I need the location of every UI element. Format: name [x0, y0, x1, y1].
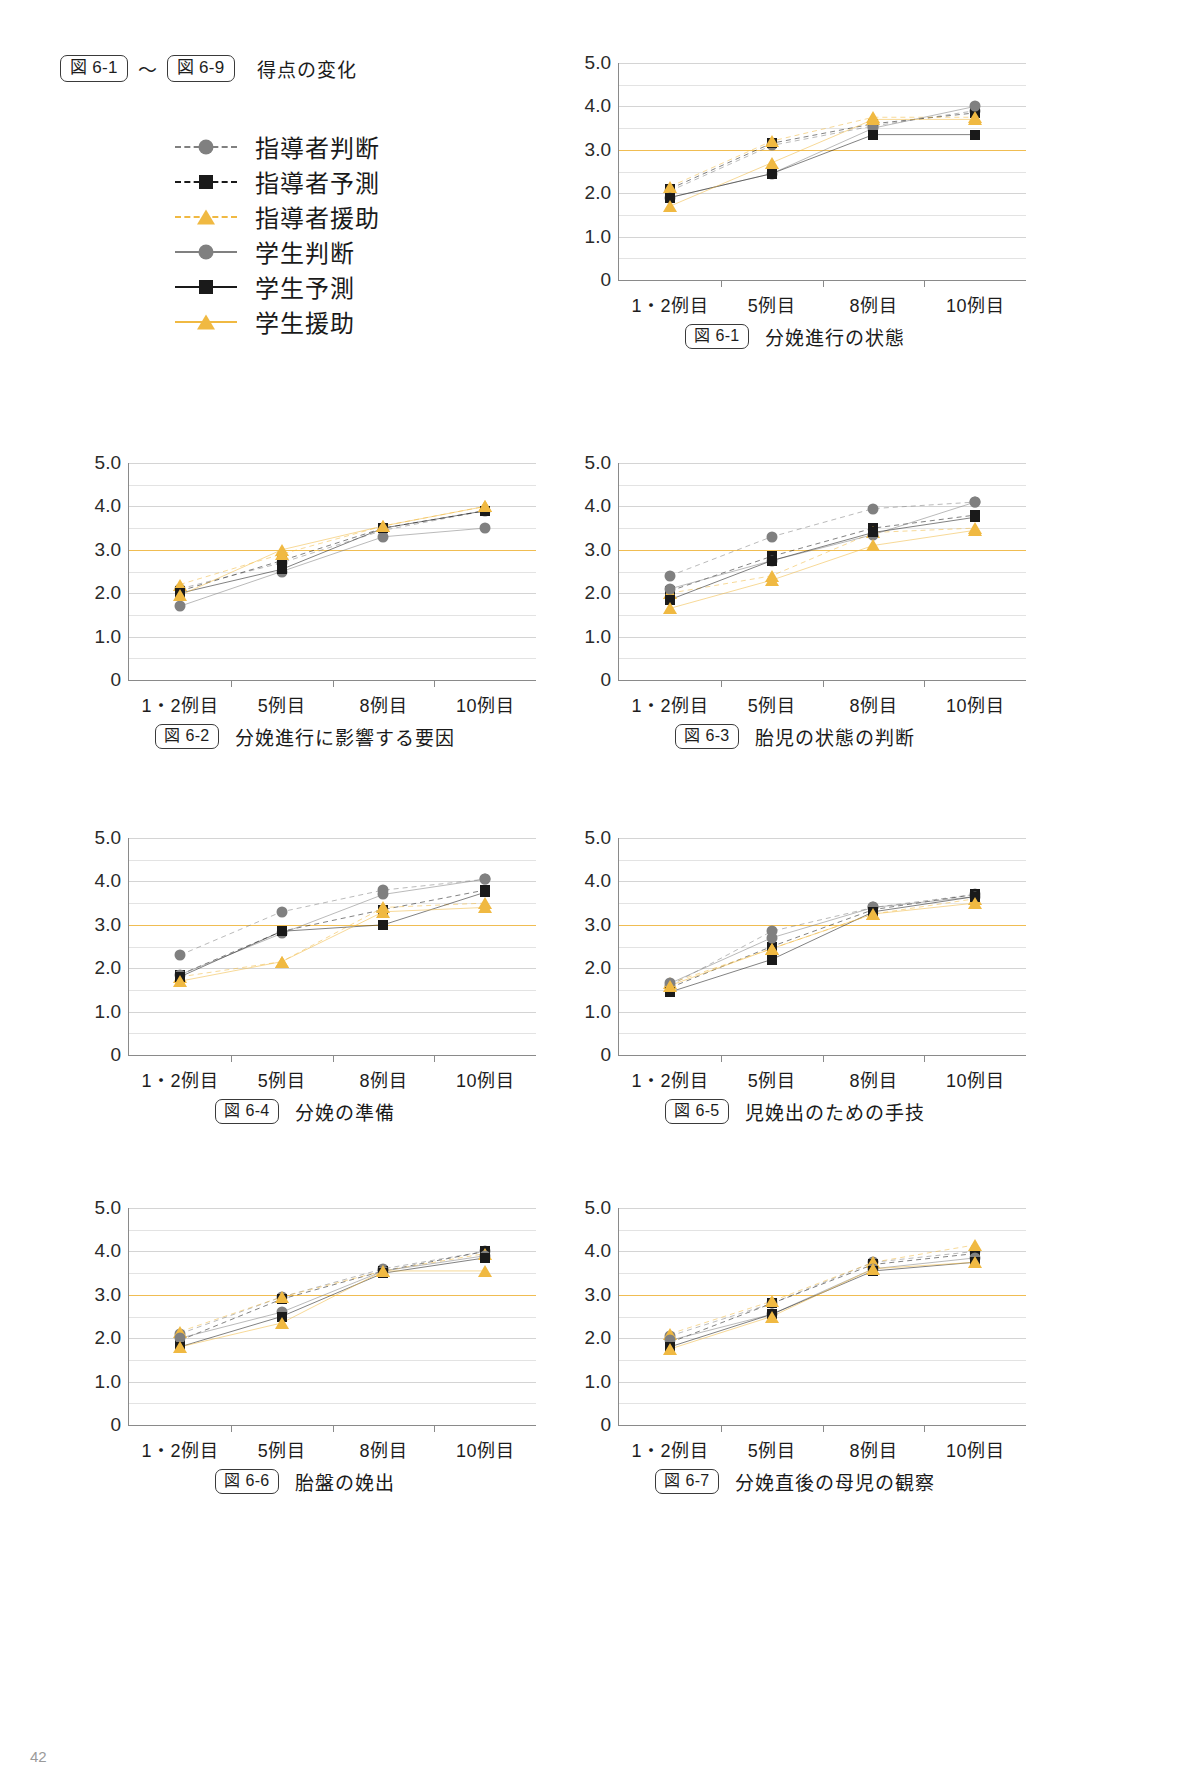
data-point-triangle [968, 897, 982, 909]
x-axis-tick-label: 10例目 [456, 1436, 514, 1462]
plot-canvas: 01.02.03.04.05.01・2例目5例目8例目10例目 [618, 1208, 1026, 1426]
x-axis-tick-label: 5例目 [258, 691, 306, 717]
chart-figure-tag: 図 6-6 [215, 1469, 278, 1494]
chart-caption-text: 分娩進行の状態 [765, 323, 905, 350]
x-axis-tick-mark [231, 1425, 232, 1432]
data-point-triangle [173, 975, 187, 987]
plot-canvas: 01.02.03.04.05.01・2例目5例目8例目10例目 [128, 838, 536, 1056]
chart-plot-area: 01.02.03.04.05.01・2例目5例目8例目10例目 [70, 830, 540, 1092]
legend-item: 学生予測 [175, 270, 380, 303]
chart-caption: 図 6-5児娩出のための手技 [560, 1098, 1030, 1125]
y-axis-tick-label: 1.0 [585, 1371, 611, 1393]
y-axis-tick-label: 1.0 [95, 1371, 121, 1393]
x-axis-tick-mark [924, 1425, 925, 1432]
x-axis-tick-label: 1・2例目 [142, 1436, 219, 1462]
y-axis-tick-label: 4.0 [585, 1240, 611, 1262]
legend-item-label: 指導者予測 [255, 164, 380, 199]
y-axis-tick-label: 1.0 [585, 226, 611, 248]
header-figure-tag-end: 図 6-9 [167, 55, 235, 82]
chart-caption: 図 6-7分娩直後の母児の観察 [560, 1468, 1030, 1495]
page-root: 図 6-1 〜 図 6-9 得点の変化 指導者判断指導者予測指導者援助学生判断学… [0, 0, 1194, 1771]
data-point-triangle [968, 113, 982, 125]
y-axis-tick-label: 2.0 [585, 1327, 611, 1349]
y-axis-tick-label: 4.0 [585, 870, 611, 892]
data-point-triangle [663, 181, 677, 193]
data-point-triangle [275, 1317, 289, 1329]
x-axis-tick-mark [434, 1425, 435, 1432]
y-axis-tick-label: 2.0 [585, 182, 611, 204]
page-title: 図 6-1 〜 図 6-9 得点の変化 [60, 55, 357, 82]
y-axis-tick-label: 0 [110, 1044, 121, 1066]
data-point-triangle [968, 1239, 982, 1251]
x-axis-tick-mark [924, 680, 925, 687]
chart-caption: 図 6-2分娩進行に影響する要因 [70, 723, 540, 750]
x-axis-tick-label: 10例目 [946, 691, 1004, 717]
plot-canvas: 01.02.03.04.05.01・2例目5例目8例目10例目 [618, 63, 1026, 281]
x-axis-tick-label: 1・2例目 [632, 1066, 709, 1092]
data-point-circle [480, 874, 491, 885]
legend-square-icon [175, 276, 237, 298]
y-axis-tick-label: 1.0 [585, 626, 611, 648]
chart-fig6-7: 01.02.03.04.05.01・2例目5例目8例目10例目図 6-7分娩直後… [560, 1200, 1030, 1462]
legend-square-icon [175, 171, 237, 193]
x-axis-tick-mark [434, 680, 435, 687]
y-axis-tick-label: 4.0 [585, 495, 611, 517]
y-axis-tick-label: 5.0 [95, 1197, 121, 1219]
chart-legend: 指導者判断指導者予測指導者援助学生判断学生予測学生援助 [175, 130, 380, 338]
plot-canvas: 01.02.03.04.05.01・2例目5例目8例目10例目 [618, 463, 1026, 681]
data-point-circle [480, 523, 491, 534]
header-tilde: 〜 [136, 55, 159, 82]
chart-plot-area: 01.02.03.04.05.01・2例目5例目8例目10例目 [560, 455, 1030, 717]
y-axis-tick-label: 4.0 [95, 495, 121, 517]
marker-layer [619, 463, 1026, 680]
marker-layer [619, 1208, 1026, 1425]
x-axis-tick-label: 5例目 [748, 1066, 796, 1092]
x-axis-tick-label: 10例目 [946, 1066, 1004, 1092]
data-point-triangle [765, 574, 779, 586]
x-axis-tick-label: 8例目 [360, 1436, 408, 1462]
plot-canvas: 01.02.03.04.05.01・2例目5例目8例目10例目 [128, 1208, 536, 1426]
x-axis-tick-label: 10例目 [946, 291, 1004, 317]
data-point-square [767, 556, 777, 566]
x-axis-tick-label: 10例目 [946, 1436, 1004, 1462]
x-axis-tick-label: 5例目 [258, 1066, 306, 1092]
data-point-square [970, 512, 980, 522]
data-point-triangle [376, 1265, 390, 1277]
y-axis-tick-label: 1.0 [95, 1001, 121, 1023]
chart-caption-text: 分娩の準備 [295, 1098, 395, 1125]
page-number: 42 [30, 1748, 47, 1765]
y-axis-tick-label: 2.0 [585, 582, 611, 604]
data-point-triangle [275, 1291, 289, 1303]
chart-caption-text: 胎児の状態の判断 [755, 723, 915, 750]
x-axis-tick-label: 1・2例目 [632, 291, 709, 317]
data-point-square [378, 920, 388, 930]
data-point-triangle [275, 956, 289, 968]
data-point-circle [378, 889, 389, 900]
chart-fig6-6: 01.02.03.04.05.01・2例目5例目8例目10例目図 6-6胎盤の娩… [70, 1200, 540, 1462]
chart-plot-area: 01.02.03.04.05.01・2例目5例目8例目10例目 [70, 455, 540, 717]
x-axis-tick-mark [721, 280, 722, 287]
x-axis-tick-mark [231, 1055, 232, 1062]
y-axis-tick-label: 0 [600, 1044, 611, 1066]
y-axis-tick-label: 0 [110, 1414, 121, 1436]
y-axis-tick-label: 5.0 [95, 827, 121, 849]
data-point-triangle [663, 980, 677, 992]
chart-plot-area: 01.02.03.04.05.01・2例目5例目8例目10例目 [560, 1200, 1030, 1462]
data-point-triangle [765, 157, 779, 169]
x-axis-tick-label: 5例目 [258, 1436, 306, 1462]
chart-figure-tag: 図 6-2 [155, 724, 218, 749]
data-point-triangle [376, 520, 390, 532]
chart-figure-tag: 図 6-5 [665, 1099, 728, 1124]
data-point-square [868, 527, 878, 537]
data-point-circle [276, 906, 287, 917]
data-point-square [868, 130, 878, 140]
x-axis-tick-label: 5例目 [748, 1436, 796, 1462]
data-point-triangle [478, 1265, 492, 1277]
data-point-triangle [866, 113, 880, 125]
y-axis-tick-label: 1.0 [95, 626, 121, 648]
marker-layer [619, 63, 1026, 280]
chart-fig6-2: 01.02.03.04.05.01・2例目5例目8例目10例目図 6-2分娩進行… [70, 455, 540, 717]
y-axis-tick-label: 5.0 [95, 452, 121, 474]
y-axis-tick-label: 2.0 [95, 1327, 121, 1349]
data-point-triangle [866, 908, 880, 920]
